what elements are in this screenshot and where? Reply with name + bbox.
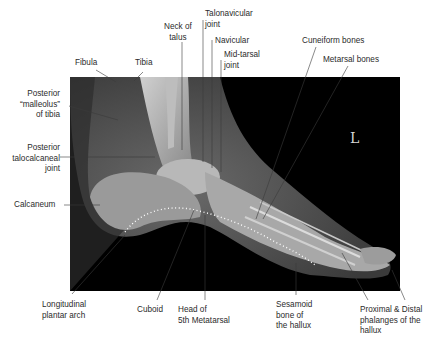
label-posterior-malleolus: Posterior “malleolus” of tibia: [8, 89, 60, 121]
label-phalanges: Proximal & Distal phalanges of the hallu…: [360, 305, 422, 337]
label-neck-of-talus: Neck of talus: [164, 22, 192, 43]
label-posterior-talocalcaneal-joint: Posterior talocalcaneal joint: [4, 143, 60, 175]
label-navicular: Navicular: [215, 36, 249, 47]
label-talonavicular-joint: Talonavicular joint: [205, 9, 253, 30]
label-cuneiform-bones: Cuneiform bones: [302, 36, 364, 47]
label-longitudinal-plantar-arch: Longitudinal plantar arch: [42, 300, 86, 321]
label-fibula: Fibula: [75, 58, 97, 69]
label-calcaneum: Calcaneum: [14, 200, 55, 211]
label-mid-tarsal-joint: Mid-tarsal joint: [224, 50, 260, 71]
leader-lines: [0, 0, 430, 341]
label-tibia: Tibia: [135, 58, 152, 69]
label-metatarsal-bones: Metarsal bones: [323, 55, 379, 66]
label-cuboid: Cuboid: [137, 305, 163, 316]
label-head-of-5th-metatarsal: Head of 5th Metatarsal: [178, 305, 230, 326]
label-sesamoid-bone: Sesamoid bone of the hallux: [276, 300, 312, 332]
